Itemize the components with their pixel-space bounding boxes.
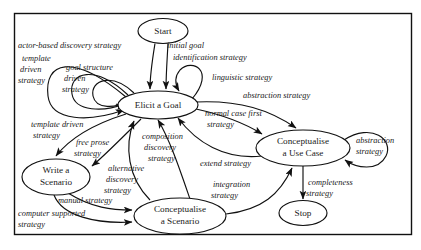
edge-label-composition-discovery-line3: strategy (148, 154, 175, 163)
edge-label-free-prose-line1: free prose (76, 138, 109, 147)
node-conceptualise-a-use-case[interactable]: Conceptualise a Use Case (256, 130, 350, 166)
node-conceptualise-a-use-case-label-line2: a Use Case (283, 148, 324, 158)
node-conceptualise-a-scenario[interactable]: Conceptualise a Scenario (134, 198, 226, 234)
edge-label-alternative-discovery-line3: strategy (104, 186, 131, 195)
edge-label-composition-discovery-line2: discovery (144, 143, 176, 152)
edge-label-completeness-strategy-line1: completeness (308, 178, 353, 187)
node-stop-label: Stop (295, 208, 312, 218)
edge-label-template-driven-2-line1: template driven (31, 120, 83, 129)
edge-label-goal-structure-line1: goal structure (66, 63, 113, 72)
edge-start-to-elicit-a (150, 44, 155, 90)
node-start[interactable]: Start (138, 19, 188, 44)
node-stop[interactable]: Stop (279, 201, 327, 226)
edge-label-computer-supported-line2: strategy (18, 220, 45, 229)
edge-label-template-driven-2-line2: strategy (33, 131, 60, 140)
node-write-a-scenario-label-line2: Scenario (40, 177, 73, 187)
edge-label-manual-strategy: manual strategy (58, 196, 112, 205)
state-diagram: Start Elicit a Goal Conceptualise a Use … (0, 0, 421, 250)
edge-label-free-prose-line2: strategy (74, 149, 101, 158)
edge-label-alternative-discovery-line2: discovery (106, 175, 138, 184)
edge-label-initial-goal-line1: initial goal (167, 41, 205, 50)
edge-label-composition-discovery-line1: composition (142, 132, 183, 141)
node-write-a-scenario[interactable]: Write a Scenario (22, 159, 90, 195)
node-conceptualise-a-scenario-label-line2: a Scenario (161, 216, 200, 226)
diagram-root: Start Elicit a Goal Conceptualise a Use … (0, 0, 421, 250)
node-write-a-scenario-label-line1: Write a (43, 165, 70, 175)
node-conceptualise-a-use-case-label-line1: Conceptualise (277, 136, 329, 146)
edge-label-goal-structure-line2: driven (64, 74, 85, 83)
edge-label-abstraction-strategy-2-line2: strategy (356, 147, 383, 156)
edge-label-extend-strategy: extend strategy (200, 159, 251, 168)
edge-label-actor-based-discovery-strategy: actor-based discovery strategy (18, 41, 121, 50)
edge-label-template-driven-1-line3: strategy (18, 76, 45, 85)
edge-label-normal-case-first-line2: strategy (207, 120, 234, 129)
edge-label-computer-supported-line1: computer supported (18, 209, 86, 218)
node-start-label: Start (154, 26, 172, 36)
edge-label-template-driven-1-line1: template (22, 54, 51, 63)
edge-label-template-driven-1-line2: driven (20, 65, 41, 74)
edge-label-alternative-discovery-line1: alternative (108, 164, 145, 173)
edge-label-completeness-strategy-line2: strategy (306, 189, 333, 198)
node-elicit-a-goal-label: Elicit a Goal (135, 100, 182, 110)
edge-label-goal-structure-line3: strategy (62, 85, 89, 94)
edge-start-to-elicit-b (166, 44, 168, 90)
edge-label-normal-case-first-line1: normal case first (205, 109, 262, 118)
node-conceptualise-a-scenario-label-line1: Conceptualise (154, 204, 206, 214)
edge-label-integration-strategy-line2: strategy (211, 191, 238, 200)
node-elicit-a-goal[interactable]: Elicit a Goal (118, 91, 198, 119)
edge-label-abstraction-strategy-1: abstraction strategy (243, 91, 311, 100)
edge-label-linguistic-strategy: linguistic strategy (212, 73, 273, 82)
edge-label-integration-strategy-line1: integration (213, 180, 250, 189)
edge-label-initial-goal-line2: identification strategy (173, 53, 247, 62)
edge-label-abstraction-strategy-2-line1: abstraction (356, 136, 394, 145)
